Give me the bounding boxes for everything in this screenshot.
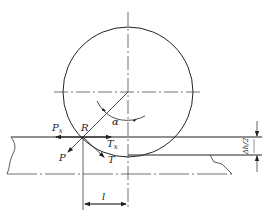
label-Px-sub: x: [59, 127, 63, 135]
label-T: T: [108, 155, 115, 165]
label-Tx: Tx: [107, 139, 118, 151]
alpha-arrowhead-start: [102, 108, 106, 111]
label-Tx-main: T: [107, 138, 114, 149]
label-l: l: [102, 192, 105, 202]
radius-line: [83, 92, 128, 137]
label-delta-h-over-2: Δh/2: [242, 138, 250, 154]
label-Px: Px: [52, 123, 63, 135]
right-break-line: [210, 155, 232, 174]
label-Tx-sub: x: [114, 143, 118, 151]
diagram-canvas: Px R α Tx P T l Δh/2: [0, 0, 268, 219]
P-force-line: [68, 137, 83, 152]
label-Px-main: P: [52, 122, 59, 133]
label-alpha: α: [112, 117, 119, 127]
label-P: P: [59, 153, 66, 163]
label-R: R: [81, 123, 89, 133]
T-arrow: [83, 137, 104, 157]
left-break-line: [7, 137, 15, 174]
diagram-graphic: [0, 0, 268, 219]
